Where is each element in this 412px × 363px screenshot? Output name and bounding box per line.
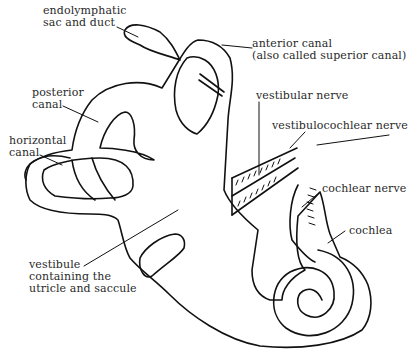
label-line: utricle and saccule	[29, 283, 137, 295]
leader-line-anterior	[222, 45, 252, 48]
inner-ear-diagram: endolymphatic sac and duct anterior cana…	[0, 0, 412, 363]
horizontal-canal-inner	[42, 158, 133, 199]
label-line: canal	[32, 99, 84, 111]
label-vestibular-nerve: vestibular nerve	[256, 90, 348, 102]
label-line: sac and duct	[43, 17, 127, 29]
cochlea-spiral	[274, 250, 354, 336]
anterior-canal-inner	[174, 57, 218, 134]
label-vestibule: vestibule containing the utricle and sac…	[29, 259, 137, 295]
label-line: (also called superior canal)	[252, 50, 406, 62]
label-posterior-canal: posterior canal	[32, 87, 84, 111]
endolymphatic-sac-shape	[124, 25, 180, 60]
leader-line-vestibulocochlear	[290, 132, 389, 148]
posterior-canal-inner	[100, 112, 154, 160]
label-horizontal-canal: horizontal canal	[9, 135, 66, 159]
label-line: canal	[9, 147, 66, 159]
label-cochlea: cochlea	[349, 225, 392, 237]
leader-line-cochlear-nerve	[302, 192, 320, 207]
label-endolymphatic-sac: endolymphatic sac and duct	[43, 5, 127, 29]
label-vestibulocochlear-nerve: vestibulocochlear nerve	[272, 120, 408, 132]
label-cochlear-nerve: cochlear nerve	[322, 183, 406, 195]
oval-window-shape	[140, 234, 185, 277]
label-anterior-canal: anterior canal (also called superior can…	[252, 38, 406, 62]
